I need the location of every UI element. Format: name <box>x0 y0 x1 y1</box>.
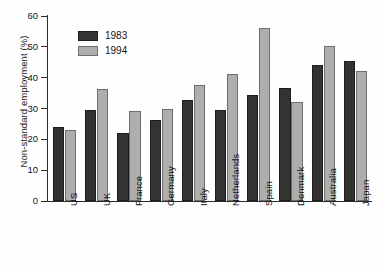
y-tick-40 <box>41 77 48 78</box>
y-tick-60 <box>41 16 48 17</box>
legend: 1983 1994 <box>78 29 127 59</box>
x-label-netherlands: Netherlands <box>230 154 241 206</box>
x-label-france: France <box>133 176 144 206</box>
x-label-italy: Italy <box>198 188 209 206</box>
legend-item-1994: 1994 <box>78 44 127 57</box>
x-label-us: US <box>68 193 79 206</box>
y-tick-30 <box>41 108 48 109</box>
x-label-uk: UK <box>101 193 112 206</box>
legend-swatch-1983 <box>78 31 98 41</box>
x-axis-line <box>47 201 372 202</box>
y-tick-label-0: 0 <box>14 195 38 206</box>
bar-chart: Non-standard employment (%) 010203040506… <box>0 0 379 269</box>
bar-uk-1983 <box>85 110 96 201</box>
bar-france-1983 <box>117 133 128 201</box>
y-tick-label-10: 10 <box>14 164 38 175</box>
y-tick-label-40: 40 <box>14 72 38 83</box>
bar-us-1994 <box>65 130 76 201</box>
y-tick-label-20: 20 <box>14 133 38 144</box>
bar-japan-1983 <box>344 61 355 201</box>
x-label-germany: Germany <box>165 166 176 206</box>
bar-germany-1983 <box>150 120 161 201</box>
legend-swatch-1994 <box>78 46 98 56</box>
x-label-spain: Spain <box>263 181 274 206</box>
bar-spain-1983 <box>247 95 258 201</box>
legend-label-1994: 1994 <box>105 46 127 56</box>
bar-uk-1994 <box>97 89 108 201</box>
y-tick-label-60: 60 <box>14 10 38 21</box>
y-tick-0 <box>41 201 48 202</box>
y-tick-50 <box>41 46 48 47</box>
y-tick-label-30: 30 <box>14 103 38 114</box>
bar-us-1983 <box>53 127 64 201</box>
x-label-denmark: Denmark <box>295 167 306 206</box>
x-label-japan: Japan <box>360 180 371 206</box>
x-label-australia: Australia <box>327 168 338 206</box>
y-tick-label-50: 50 <box>14 41 38 52</box>
bar-italy-1994 <box>194 85 205 201</box>
legend-label-1983: 1983 <box>105 31 127 41</box>
y-tick-20 <box>41 139 48 140</box>
y-tick-10 <box>41 170 48 171</box>
legend-item-1983: 1983 <box>78 29 127 42</box>
bar-denmark-1983 <box>279 88 290 201</box>
bar-spain-1994 <box>259 28 270 201</box>
bar-australia-1983 <box>312 65 323 201</box>
bar-netherlands-1983 <box>215 110 226 201</box>
bar-italy-1983 <box>182 100 193 201</box>
